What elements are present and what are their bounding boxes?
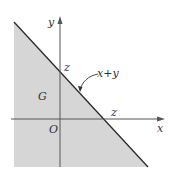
- region-label: G: [38, 90, 47, 103]
- x-intercept-label: z: [110, 106, 117, 119]
- origin-label: O: [49, 123, 58, 136]
- diagram-figure: y z x+y G z O x: [0, 0, 174, 179]
- y-intercept-label: z: [63, 61, 70, 74]
- diagram-canvas: y z x+y G z O x: [0, 0, 174, 179]
- line-label: x+y: [97, 67, 119, 80]
- x-axis-arrow-icon: [157, 117, 165, 122]
- y-axis-arrow-icon: [58, 16, 63, 24]
- label-leader-curve: [80, 74, 98, 90]
- x-axis-label: x: [157, 122, 164, 135]
- y-axis-label: y: [47, 16, 55, 29]
